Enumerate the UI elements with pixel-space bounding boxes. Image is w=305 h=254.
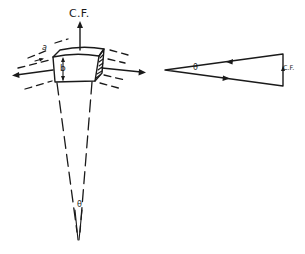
rim-arc-dashed-left-top: [55, 39, 68, 43]
upper-side-arrowhead: [226, 59, 233, 65]
rim-arc-dashed-left-lower: [25, 81, 52, 89]
thickness-label: b: [60, 64, 66, 73]
apex-line-left: [75, 210, 78, 240]
tension-arrow-right: [102, 68, 146, 76]
rim-arc-dashed-right-middle: [108, 59, 125, 63]
force-triangle-diagram: [165, 54, 285, 86]
rim-arc-dashed-right-upper: [110, 50, 128, 55]
triangle-angle-label: θ: [193, 64, 198, 72]
centrifugal-force-arrow: [77, 21, 83, 50]
cone-angle-label: θ: [77, 201, 82, 209]
force-triangle-outline: [165, 54, 283, 86]
radial-line-left: [57, 83, 77, 232]
arc-length-label: a: [42, 44, 47, 52]
triangle-cf-label: C.F.: [283, 65, 294, 72]
apex-line-right: [79, 210, 82, 240]
rim-arc-dashed-right-bottom: [100, 83, 122, 89]
rim-arc-dashed-left-middle: [18, 60, 50, 68]
diagram-canvas: [0, 0, 305, 254]
arc-length-arrow: [35, 58, 44, 62]
rim-arc-dashed-right-lower: [104, 75, 125, 80]
centrifugal-force-label: C.F.: [69, 8, 89, 19]
tension-arrow-left: [12, 70, 53, 78]
lower-side-arrowhead: [223, 76, 231, 82]
